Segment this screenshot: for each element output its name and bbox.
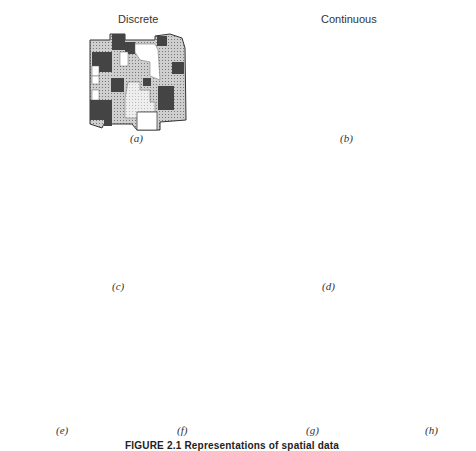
label-e: (e) [56,424,68,436]
label-g: (g) [306,424,319,436]
figure-caption: FIGURE 2.1 Representations of spatial da… [125,440,339,451]
label-h: (h) [425,424,438,436]
label-b: (b) [340,132,353,144]
label-a: (a) [130,132,143,144]
label-d: (d) [322,280,335,292]
label-f: (f) [177,424,187,436]
panel-a-choropleth [90,34,186,130]
label-c: (c) [112,280,124,292]
